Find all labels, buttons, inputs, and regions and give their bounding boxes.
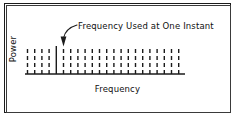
x-axis-label: Frequency [0,84,235,94]
curved-arrow-icon [64,25,78,38]
y-axis-label: Power [8,29,18,69]
plot-surface: Frequency Used at One Instant Frequency … [0,0,235,117]
arrowhead-icon [61,37,67,47]
figure-root: Frequency Used at One Instant Frequency … [0,0,235,117]
frequency-channel-lines [28,46,179,74]
annotation-arrow-group [61,25,77,47]
frequency-spectrum-plot [0,0,235,117]
annotation-label: Frequency Used at One Instant [78,21,214,31]
